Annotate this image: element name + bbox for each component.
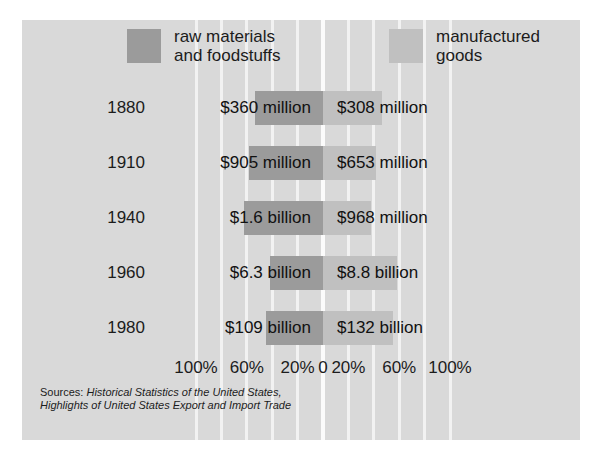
axis-tick-labels: 100%60%20%020%60%100% xyxy=(22,358,580,384)
row-year-label: 1960 xyxy=(40,263,145,283)
legend-swatch-manufactured-goods xyxy=(389,29,423,63)
axis-tick-neg60: 60% xyxy=(230,358,264,378)
chart-row: 1980$109 billion$132 billion xyxy=(22,300,580,355)
row-year-label: 1910 xyxy=(40,153,145,173)
chart-row: 1960$6.3 billion$8.8 billion xyxy=(22,245,580,300)
bar-value-manufactured-goods: $653 million xyxy=(337,153,428,173)
chart-row: 1910$905 million$653 million xyxy=(22,135,580,190)
bar-value-raw-materials: $6.3 billion xyxy=(230,263,311,283)
axis-tick-neg20: 20% xyxy=(281,358,315,378)
sources-lead: Sources: xyxy=(40,386,86,398)
axis-tick-20: 20% xyxy=(331,358,365,378)
sources-title-1: Historical Statistics of the United Stat… xyxy=(86,386,281,398)
bar-value-manufactured-goods: $8.8 billion xyxy=(337,263,418,283)
axis-tick-neg100: 100% xyxy=(174,358,217,378)
chart-rows: 1880$360 million$308 million1910$905 mil… xyxy=(22,80,580,355)
sources-line-1: Sources: Historical Statistics of the Un… xyxy=(40,386,291,399)
bar-value-manufactured-goods: $132 billion xyxy=(337,318,423,338)
chart-row: 1940$1.6 billion$968 million xyxy=(22,190,580,245)
legend-label-raw-materials: raw materials and foodstuffs xyxy=(174,27,281,65)
bar-value-raw-materials: $1.6 billion xyxy=(230,208,311,228)
axis-tick-60: 60% xyxy=(382,358,416,378)
bar-value-raw-materials: $360 million xyxy=(220,98,311,118)
legend-swatch-raw-materials xyxy=(127,29,161,63)
chart-frame: raw materials and foodstuffs manufacture… xyxy=(22,20,580,440)
row-year-label: 1980 xyxy=(40,318,145,338)
legend-item-manufactured-goods: manufactured goods xyxy=(389,29,540,65)
legend-label-manufactured-goods: manufactured goods xyxy=(436,27,540,65)
row-year-label: 1880 xyxy=(40,98,145,118)
legend-item-raw-materials: raw materials and foodstuffs xyxy=(127,29,281,65)
axis-tick-100: 100% xyxy=(428,358,471,378)
bar-value-manufactured-goods: $968 million xyxy=(337,208,428,228)
bar-value-raw-materials: $905 million xyxy=(220,153,311,173)
axis-tick-0: 0 xyxy=(318,358,327,378)
bar-value-raw-materials: $109 billion xyxy=(225,318,311,338)
sources-caption: Sources: Historical Statistics of the Un… xyxy=(40,386,291,412)
row-year-label: 1940 xyxy=(40,208,145,228)
sources-title-2: Highlights of United States Export and I… xyxy=(40,399,291,412)
chart-legend: raw materials and foodstuffs manufacture… xyxy=(22,20,580,80)
bar-value-manufactured-goods: $308 million xyxy=(337,98,428,118)
chart-row: 1880$360 million$308 million xyxy=(22,80,580,135)
